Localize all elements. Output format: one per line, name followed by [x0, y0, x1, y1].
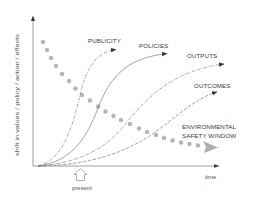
safety-window-arrow-icon: [203, 141, 218, 153]
policies-curve: [38, 54, 167, 167]
safety-window-dotted-line: [41, 40, 200, 148]
outputs-label: OUTPUTS: [187, 52, 217, 59]
safety-window-label-line1: ENVIRONMENTAL: [182, 123, 237, 130]
x-axis-arrow-icon: [214, 164, 220, 168]
policies-label: POLICIES: [139, 42, 168, 49]
y-axis-arrow-icon: [31, 16, 35, 22]
x-axis-label: time: [205, 174, 217, 180]
safety-window-label-line2: SAFETY WINDOW: [182, 132, 236, 139]
y-axis-label: shift in values / policy / action / effe…: [14, 34, 20, 156]
publicity-label: PUBLICITY: [88, 37, 121, 44]
present-label: present: [72, 185, 92, 191]
y-axis: [31, 16, 35, 167]
publicity-curve: [38, 50, 116, 167]
diagram: shift in values / policy / action / effe…: [0, 0, 253, 200]
present-arrow-icon: [74, 169, 87, 181]
outputs-curve: [38, 64, 224, 166]
outcomes-label: OUTCOMES: [194, 82, 231, 89]
